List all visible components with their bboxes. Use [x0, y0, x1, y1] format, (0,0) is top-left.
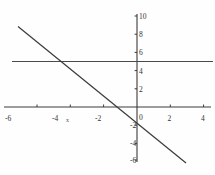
x-tick-label: 2 [168, 114, 172, 123]
graph-canvas: -6 -4 -2 0 2 4 10 8 6 4 2 -2 -4 -6 x [0, 0, 215, 175]
y-tick-label: 10 [139, 12, 147, 21]
y-tick-label: -2 [130, 121, 136, 130]
x-tick-label: 0 [139, 113, 143, 122]
y-tick-label: -6 [130, 156, 136, 165]
x-tick-labels: -6 -4 -2 0 2 4 [5, 113, 205, 123]
x-tick-label: -6 [5, 114, 11, 123]
series-diagonal-line [18, 27, 186, 164]
coordinate-plot: -6 -4 -2 0 2 4 10 8 6 4 2 -2 -4 -6 x [0, 0, 215, 175]
x-tick-label: 4 [201, 114, 205, 123]
y-tick-label: 2 [139, 85, 143, 94]
y-tick-label: 4 [139, 67, 143, 76]
y-tick-label: 8 [139, 30, 143, 39]
x-tick-label: -2 [95, 114, 101, 123]
y-tick-label: 6 [139, 48, 143, 57]
y-tick-labels: 10 8 6 4 2 -2 -4 -6 [130, 12, 147, 165]
x-tick-label: -4 [52, 114, 58, 123]
x-axis-label: x [66, 117, 69, 123]
y-tick-label: -4 [130, 139, 136, 148]
